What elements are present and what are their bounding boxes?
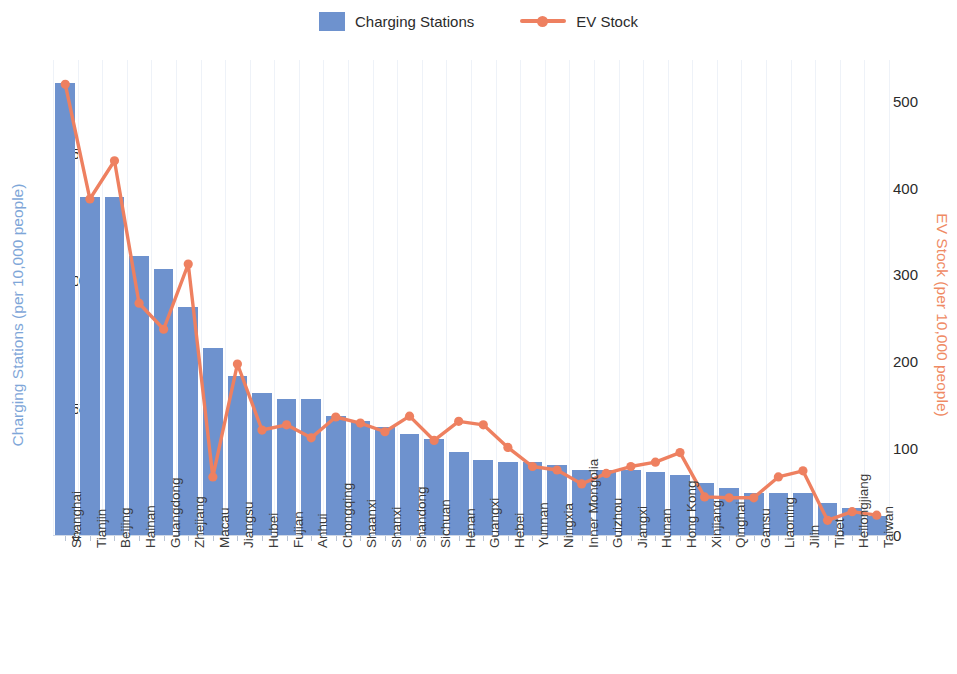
ev-stock-line: Shanghai: 520Tianjin: 388Beijing: 432Hai… (53, 60, 889, 536)
y-axis-right-title: EV Stock (per 10,000 people) (933, 155, 951, 475)
x-axis-label: Hainan (144, 505, 158, 548)
x-axis-label: Fujian (292, 511, 306, 548)
x-axis-label: Jiangsu (242, 501, 256, 548)
x-axis-label: Anhui (316, 513, 330, 548)
line-marker[interactable]: Shandong: 138 (405, 412, 414, 421)
line-marker[interactable]: Liaoning: 68 (774, 472, 783, 481)
line-marker[interactable]: Fujian: 128 (282, 420, 291, 429)
line-marker[interactable]: Guangxi: 128 (479, 420, 488, 429)
line-marker[interactable]: Guangdong: 238 (159, 325, 168, 334)
plot-area: Shanghai: 520Tianjin: 388Beijing: 432Hai… (53, 60, 889, 536)
line-marker[interactable]: Zhejiang: 313 (184, 260, 193, 269)
x-axis-label: Shanghai (70, 491, 84, 548)
x-axis-label: Hubei (267, 513, 281, 548)
line-marker[interactable]: Tibet: 18 (823, 516, 832, 525)
legend-item-ev-stock[interactable]: EV Stock (520, 13, 638, 30)
x-axis-label: Macau (218, 507, 232, 548)
x-axis-label: Xinjiang (710, 500, 724, 548)
line-marker[interactable]: Shanghai: 520 (61, 80, 70, 89)
y-axis-right-tick: 300 (893, 267, 953, 283)
x-axis-label: Jiangxi (636, 506, 650, 548)
x-axis-label: Qinghai (734, 501, 748, 548)
x-axis-label: Shandong (415, 486, 429, 548)
line-marker[interactable]: Gansu: 44 (749, 493, 758, 502)
line-marker[interactable]: Guizhou: 72 (602, 469, 611, 478)
x-axis-label: Hunan (660, 508, 674, 548)
line-marker[interactable]: Beijing: 432 (110, 156, 119, 165)
line-marker[interactable]: Chongqing: 137 (331, 412, 340, 421)
x-axis-label: Heilongjiang (857, 474, 871, 548)
line-marker[interactable]: Yunnan: 80 (528, 462, 537, 471)
line-marker[interactable]: Hebei: 102 (503, 443, 512, 452)
x-axis-label: Yunnan (537, 502, 551, 548)
line-marker[interactable]: Tianjin: 388 (85, 194, 94, 203)
x-axis-label: Inner Mongolia (587, 459, 601, 548)
x-axis-label: Liaoning (783, 497, 797, 548)
x-axis-label: Sichuan (439, 499, 453, 548)
x-axis-label: Guizhou (611, 498, 625, 548)
line-marker[interactable]: Shaanxi: 130 (356, 418, 365, 427)
x-axis-label: Hong Kong (685, 480, 699, 548)
x-axis-label: Guangxi (488, 498, 502, 548)
x-axis-labels: ShanghaiTianjinBeijingHainanGuangdongZhe… (53, 540, 889, 674)
line-marker[interactable]: Anhui: 113 (307, 433, 316, 442)
legend-label-charging-stations: Charging Stations (355, 13, 474, 30)
x-axis-label: Ningxia (562, 503, 576, 548)
line-series: Shanghai: 520Tianjin: 388Beijing: 432Hai… (53, 60, 889, 536)
line-marker[interactable]: Shanxi: 120 (380, 427, 389, 436)
x-axis-label: Tibet (833, 518, 847, 548)
x-axis-label: Shaanxi (365, 499, 379, 548)
line-marker[interactable]: Jilin: 75 (798, 466, 807, 475)
chart-container: Charging Stations EV Stock Charging Stat… (0, 0, 957, 674)
x-axis-label: Jilin (808, 525, 822, 548)
y-axis-right-tick: 0 (893, 528, 953, 544)
line-marker[interactable]: Ningxia: 76 (552, 465, 561, 474)
line-marker[interactable]: Macau: 68 (208, 472, 217, 481)
line-marker[interactable]: Hong Kong: 96 (675, 448, 684, 457)
x-axis-label: Hebei (513, 513, 527, 548)
line-marker-icon (520, 14, 566, 28)
line-path (65, 84, 876, 520)
y-axis-right-tick: 200 (893, 354, 953, 370)
line-marker[interactable]: Jiangxi: 80 (626, 462, 635, 471)
legend-item-charging-stations[interactable]: Charging Stations (319, 12, 474, 31)
x-axis-label: Gansu (759, 508, 773, 548)
y-axis-right-tick: 500 (893, 94, 953, 110)
x-axis-label: Zhejiang (193, 496, 207, 548)
line-marker[interactable]: Hubei: 122 (257, 425, 266, 434)
y-axis-left-title: Charging Stations (per 10,000 people) (9, 155, 27, 475)
x-axis-label: Guangdong (169, 477, 183, 548)
y-axis-right-tick: 400 (893, 181, 953, 197)
line-marker[interactable]: Sichuan: 110 (430, 436, 439, 445)
line-marker[interactable]: Taiwan: 24 (872, 511, 881, 520)
square-swatch-icon (319, 12, 345, 31)
line-marker[interactable]: Henan: 132 (454, 417, 463, 426)
line-marker[interactable]: Inner Mongolia: 60 (577, 479, 586, 488)
line-marker[interactable]: Xinjiang: 45 (700, 492, 709, 501)
x-axis-label: Beijing (119, 507, 133, 548)
line-marker[interactable]: Hunan: 85 (651, 458, 660, 467)
legend-label-ev-stock: EV Stock (576, 13, 638, 30)
x-axis-label: Henan (464, 508, 478, 548)
x-axis-label: Chongqing (341, 483, 355, 548)
y-axis-right-tick: 100 (893, 441, 953, 457)
x-axis-label: Taiwan (882, 506, 896, 548)
chart-legend: Charging Stations EV Stock (0, 8, 957, 34)
gridline (889, 60, 890, 536)
x-axis-label: Shanxi (390, 507, 404, 548)
line-marker[interactable]: Hainan: 268 (134, 299, 143, 308)
x-axis-label: Tianjin (95, 509, 109, 548)
line-marker[interactable]: Jiangsu: 198 (233, 359, 242, 368)
